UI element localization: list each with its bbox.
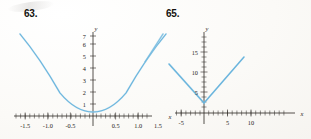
figure-63-y-tick-label-6: 6 — [83, 41, 86, 48]
figure-63-y-tick-label-7: 7 — [83, 33, 86, 40]
figure-63-x-tick-label-neg0-5: -0.5 — [65, 122, 75, 129]
figure-65-x-axis-label: x — [300, 110, 304, 117]
figure-63-y-axis-label: y — [94, 25, 98, 32]
figure-65-v-halo — [169, 57, 244, 103]
figure-65-x-tick-label-10: 10 — [248, 119, 254, 126]
figure-65-y-axis-label: y — [205, 25, 209, 32]
figure-63-y-tick-label-5: 5 — [83, 53, 86, 60]
figure-65-y-tick-label-15: 15 — [192, 49, 198, 56]
figure-65-y-tick-label-5: 5 — [195, 89, 198, 96]
figure-63-y-tick-label-3: 3 — [83, 77, 86, 84]
figure-65-plot: 15 10 5 -5 5 10 y x — [153, 0, 311, 139]
figure-65: 65. — [153, 0, 311, 139]
figure-65-right-branch — [204, 57, 244, 103]
figure-63: 63. — [0, 0, 158, 139]
figure-65-left-branch — [169, 64, 204, 103]
figure-63-plot: 7 6 5 4 3 2 1 -1.5 -1.0 -0.5 0.5 1.0 1.5… — [0, 0, 158, 139]
figure-65-absolute-value-graph — [169, 57, 244, 103]
figure-65-x-tick-label-neg5: -5 — [179, 119, 184, 126]
figure-63-x-tick-label-0-5: 0.5 — [112, 122, 120, 129]
figure-63-y-tick-label-2: 2 — [83, 89, 86, 96]
figure-65-x-tick-label-5: 5 — [226, 119, 229, 126]
figure-63-x-tick-label-neg1-0: -1.0 — [43, 122, 53, 129]
figure-63-x-tick-label-1-0: 1.0 — [134, 122, 142, 129]
figure-63-y-tick-label-4: 4 — [83, 65, 87, 72]
figure-63-y-tick-label-1: 1 — [83, 101, 86, 108]
figure-65-y-tick-label-10: 10 — [192, 69, 198, 76]
figure-63-x-tick-label-neg1-5: -1.5 — [20, 122, 30, 129]
